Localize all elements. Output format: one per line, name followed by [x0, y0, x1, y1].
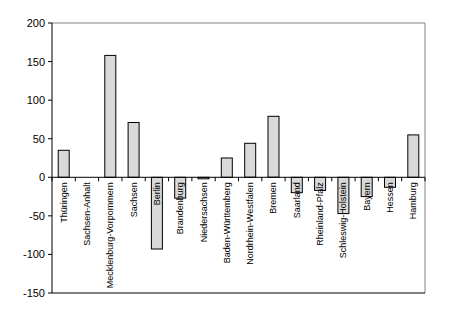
category-labels: ThüringenSachsen-AnhaltMecklenburg-Vorpo…: [59, 182, 419, 289]
category-label: Saarland: [292, 182, 302, 218]
category-label: Sachsen: [129, 182, 139, 217]
category-label: Hessen: [385, 182, 395, 213]
bar-chart: 200150100500-50-100-150 ThüringenSachsen…: [0, 0, 450, 316]
category-label: Berlin: [152, 182, 162, 205]
category-label: Niedersachsen: [199, 182, 209, 242]
bar: [105, 55, 116, 177]
bar: [268, 116, 279, 177]
y-tick-label: -100: [23, 248, 45, 260]
bar: [408, 135, 419, 177]
category-label: Sachsen-Anhalt: [82, 182, 92, 246]
category-label: Hamburg: [408, 182, 418, 219]
bar: [221, 158, 232, 177]
category-label: Bremen: [268, 182, 278, 214]
category-label: Thüringen: [59, 182, 69, 223]
y-tick-label: 100: [27, 94, 45, 106]
y-tick-label: -50: [29, 210, 45, 222]
category-label: Baden-Württemberg: [222, 182, 232, 263]
bar: [58, 150, 69, 177]
bar: [245, 143, 256, 177]
y-tick-label: 50: [33, 133, 45, 145]
category-label: Mecklenburg-Vorpommern: [105, 182, 115, 288]
y-tick-label: 200: [27, 17, 45, 29]
category-label: Rheinland-Pfalz: [315, 182, 325, 246]
y-tick-label: 0: [39, 171, 45, 183]
category-label: Bayern: [362, 182, 372, 211]
y-tick-label: 150: [27, 56, 45, 68]
y-axis: 200150100500-50-100-150: [23, 17, 52, 299]
category-label: Brandenburg: [175, 182, 185, 234]
category-label: Nordrhein-Westfalen: [245, 182, 255, 264]
category-label: Schleswig-Holstein: [338, 182, 348, 258]
y-tick-label: -150: [23, 287, 45, 299]
bar: [128, 123, 139, 178]
